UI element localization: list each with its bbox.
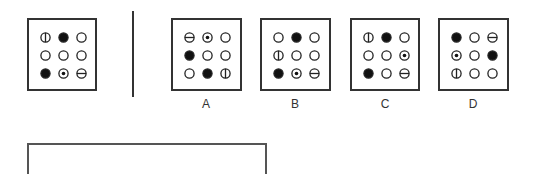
- option-b-label: B: [285, 97, 305, 111]
- circle-empty-icon: [469, 68, 480, 79]
- circle-empty-icon: [381, 68, 392, 79]
- circle-empty-icon: [40, 50, 51, 61]
- circle-empty-icon: [469, 50, 480, 61]
- circle-empty-icon: [381, 50, 392, 61]
- circle-empty-icon: [184, 68, 195, 79]
- circle-empty-icon: [487, 68, 498, 79]
- circle-dot-icon: [399, 50, 410, 61]
- circle-filled-icon: [40, 68, 51, 79]
- circle-empty-icon: [309, 50, 320, 61]
- circle-vertical-split-icon: [451, 68, 462, 79]
- answer-box[interactable]: [27, 143, 267, 174]
- circle-horizontal-split-icon: [309, 68, 320, 79]
- circle-filled-icon: [363, 68, 374, 79]
- circle-filled-icon: [487, 50, 498, 61]
- circle-filled-icon: [184, 50, 195, 61]
- circle-empty-icon: [76, 50, 87, 61]
- circle-filled-icon: [451, 32, 462, 43]
- circle-empty-icon: [399, 32, 410, 43]
- option-c-label: C: [375, 97, 395, 111]
- circle-empty-icon: [220, 50, 231, 61]
- option-d-box[interactable]: [438, 18, 509, 91]
- circle-empty-icon: [291, 50, 302, 61]
- circle-empty-icon: [202, 50, 213, 61]
- circle-dot-icon: [202, 32, 213, 43]
- circle-horizontal-split-icon: [487, 32, 498, 43]
- circle-horizontal-split-icon: [76, 68, 87, 79]
- option-a-label: A: [196, 97, 216, 111]
- circle-empty-icon: [469, 32, 480, 43]
- divider-line: [132, 11, 134, 97]
- option-a-box[interactable]: [171, 18, 242, 91]
- circle-vertical-split-icon: [220, 68, 231, 79]
- reference-grid: [29, 20, 95, 89]
- circle-vertical-split-icon: [273, 50, 284, 61]
- circle-vertical-split-icon: [40, 32, 51, 43]
- circle-horizontal-split-icon: [184, 32, 195, 43]
- circle-horizontal-split-icon: [399, 68, 410, 79]
- circle-empty-icon: [273, 32, 284, 43]
- option-c-grid: [352, 20, 418, 89]
- option-d-grid: [440, 20, 507, 89]
- circle-filled-icon: [58, 32, 69, 43]
- reference-grid-box: [27, 18, 97, 91]
- circle-filled-icon: [381, 32, 392, 43]
- circle-empty-icon: [76, 32, 87, 43]
- circle-filled-icon: [202, 68, 213, 79]
- circle-empty-icon: [309, 32, 320, 43]
- circle-filled-icon: [273, 68, 284, 79]
- circle-empty-icon: [220, 32, 231, 43]
- option-d-label: D: [463, 97, 483, 111]
- circle-dot-icon: [291, 68, 302, 79]
- circle-dot-icon: [58, 68, 69, 79]
- option-c-box[interactable]: [350, 18, 420, 91]
- option-a-grid: [173, 20, 240, 89]
- circle-empty-icon: [58, 50, 69, 61]
- circle-vertical-split-icon: [363, 32, 374, 43]
- circle-filled-icon: [291, 32, 302, 43]
- circle-empty-icon: [363, 50, 374, 61]
- option-b-box[interactable]: [260, 18, 331, 91]
- circle-dot-icon: [451, 50, 462, 61]
- option-b-grid: [262, 20, 329, 89]
